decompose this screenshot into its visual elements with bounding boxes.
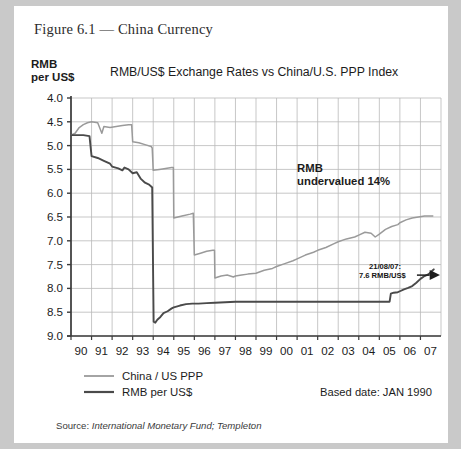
y-axis-tick-label: 7.0 — [47, 234, 63, 247]
x-axis-tick-label: 93 — [136, 344, 149, 357]
x-axis-tick-label: 92 — [116, 344, 129, 357]
chart-axes — [67, 96, 441, 336]
based-date-label: Based date: JAN 1990 — [320, 386, 432, 398]
annotation-callout-line1: 21/08/07: — [369, 262, 401, 271]
x-axis-tick-label: 06 — [403, 344, 416, 357]
chart-plot-area: 4.04.55.05.56.06.57.07.58.08.59.0 909192… — [14, 6, 448, 443]
x-axis-tick-label: 04 — [362, 344, 375, 357]
source-prefix: Source: — [56, 420, 92, 431]
y-axis-tick-label: 6.0 — [47, 186, 63, 199]
y-axis-tick-label: 5.0 — [47, 139, 63, 152]
legend-label: RMB per US$ — [122, 386, 193, 398]
y-axis-tick-label: 4.0 — [47, 91, 63, 104]
legend-label: China / US PPP — [122, 370, 203, 382]
y-axis-tick-label: 9.0 — [47, 329, 63, 342]
y-axis-tick-label: 4.5 — [47, 115, 63, 128]
chart-legend: China / US PPPRMB per US$Based date: JAN… — [84, 370, 432, 398]
y-axis-tick-label: 8.5 — [47, 305, 63, 318]
y-axis-tick-label: 5.5 — [47, 162, 63, 175]
x-axis-tick-label: 07 — [424, 344, 437, 357]
callout-arrow-icon — [430, 270, 440, 280]
x-axis-tick-label: 00 — [280, 344, 293, 357]
source-note: Source: International Monetary Fund; Tem… — [56, 420, 262, 431]
x-axis-tick-label: 91 — [95, 344, 108, 357]
x-axis-ticks: 909192939495969798990001020304050607 — [71, 336, 437, 357]
x-axis-tick-label: 02 — [321, 344, 334, 357]
x-axis-tick-label: 99 — [260, 344, 273, 357]
x-axis-tick-label: 94 — [157, 344, 170, 357]
y-axis-tick-label: 8.0 — [47, 281, 63, 294]
x-axis-tick-label: 03 — [342, 344, 355, 357]
x-axis-tick-label: 90 — [75, 344, 88, 357]
annotation-rmb-undervalued-line1: RMB — [297, 162, 323, 174]
x-axis-tick-label: 05 — [383, 344, 396, 357]
source-text: International Monetary Fund; Templeton — [92, 420, 262, 431]
x-axis-tick-label: 98 — [239, 344, 252, 357]
annotation-callout-line2: 7.6 RMB/US$ — [359, 271, 407, 280]
y-axis-tick-label: 7.5 — [47, 258, 63, 271]
line-chart: 4.04.55.05.56.06.57.07.58.08.59.0 909192… — [14, 6, 448, 443]
chart-annotations: RMBundervalued 14%21/08/07:7.6 RMB/US$ — [297, 162, 440, 280]
x-axis-tick-label: 01 — [301, 344, 314, 357]
chart-gridlines — [71, 98, 441, 336]
annotation-rmb-undervalued-line2: undervalued 14% — [297, 175, 390, 187]
y-axis-ticks: 4.04.55.05.56.06.57.07.58.08.59.0 — [47, 91, 71, 342]
x-axis-tick-label: 97 — [218, 344, 231, 357]
x-axis-tick-label: 96 — [198, 344, 211, 357]
y-axis-tick-label: 6.5 — [47, 210, 63, 223]
figure-page: Figure 6.1 — China Currency RMB per US$ … — [14, 6, 448, 443]
x-axis-tick-label: 95 — [177, 344, 190, 357]
